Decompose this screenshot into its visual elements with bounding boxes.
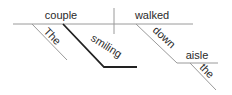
subject-word: couple xyxy=(45,9,77,21)
modifier-the-word: The xyxy=(42,25,64,47)
sentence-diagram: couple walked The smiling down aisle the xyxy=(0,0,232,95)
object-aisle-word: aisle xyxy=(186,49,209,61)
verb-word: walked xyxy=(134,9,169,21)
modifier-the-lower-word: the xyxy=(198,61,217,80)
preposition-down-word: down xyxy=(151,24,178,51)
